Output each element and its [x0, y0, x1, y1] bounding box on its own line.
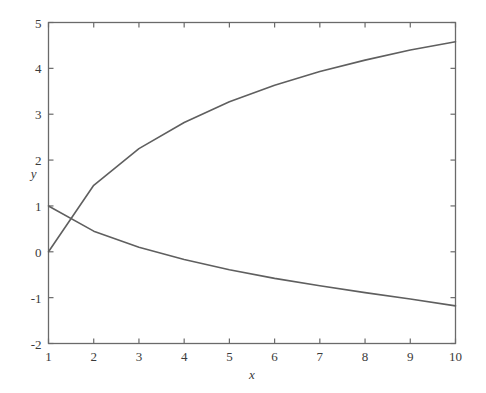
x-tick-label: 7	[317, 350, 324, 363]
y-tick-label: 4	[35, 62, 42, 75]
series-line-falling-curve	[49, 206, 456, 306]
y-tick-label: 0	[35, 245, 42, 258]
x-tick-label: 9	[407, 350, 414, 363]
x-tick-label: 4	[181, 350, 188, 363]
plot-frame	[49, 23, 456, 344]
x-tick-label: 2	[90, 350, 97, 363]
data-series	[49, 42, 456, 306]
x-tick-label: 6	[271, 350, 278, 363]
x-tick-label: 1	[45, 350, 52, 363]
y-axis-label: y	[31, 166, 37, 179]
y-tick-label: 5	[35, 16, 42, 29]
chart-figure: 12345678910-2-1012345 x y	[0, 0, 486, 393]
x-tick-label: 5	[226, 350, 233, 363]
plot-box	[49, 23, 456, 344]
x-tick-label: 3	[136, 350, 143, 363]
x-tick-label: 10	[449, 350, 462, 363]
plot-canvas	[0, 0, 486, 393]
series-line-rising-curve	[49, 42, 456, 252]
axis-ticks	[49, 23, 456, 344]
y-tick-label: -2	[31, 337, 42, 350]
x-tick-label: 8	[362, 350, 369, 363]
y-tick-label: -1	[31, 291, 42, 304]
x-axis-label: x	[249, 368, 255, 381]
y-tick-label: 1	[35, 199, 42, 212]
y-tick-label: 3	[35, 108, 42, 121]
